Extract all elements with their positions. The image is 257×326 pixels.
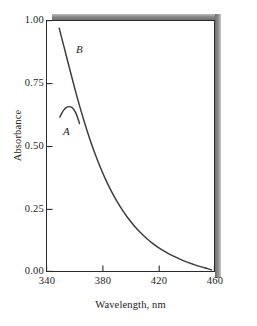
y-axis-title: Absorbance xyxy=(12,81,23,191)
x-axis-title: Wavelength, nm xyxy=(46,299,215,310)
absorbance-spectrum-figure: 1.00 0.75 0.50 0.25 0.00 340 380 420 460… xyxy=(0,0,257,326)
x-tick-label-2: 380 xyxy=(83,275,123,286)
series-line-b xyxy=(59,28,211,270)
series-line-a xyxy=(60,107,80,124)
series-label-a: A xyxy=(63,126,70,137)
y-tick-label-1: 1.00 xyxy=(10,15,44,26)
x-tick-label-3: 420 xyxy=(139,275,179,286)
y-tick-label-4: 0.25 xyxy=(10,204,44,215)
series-label-b: B xyxy=(76,44,83,55)
x-tick-label-4: 460 xyxy=(195,275,235,286)
tick-marks xyxy=(47,21,215,272)
x-tick-label-1: 340 xyxy=(27,275,67,286)
